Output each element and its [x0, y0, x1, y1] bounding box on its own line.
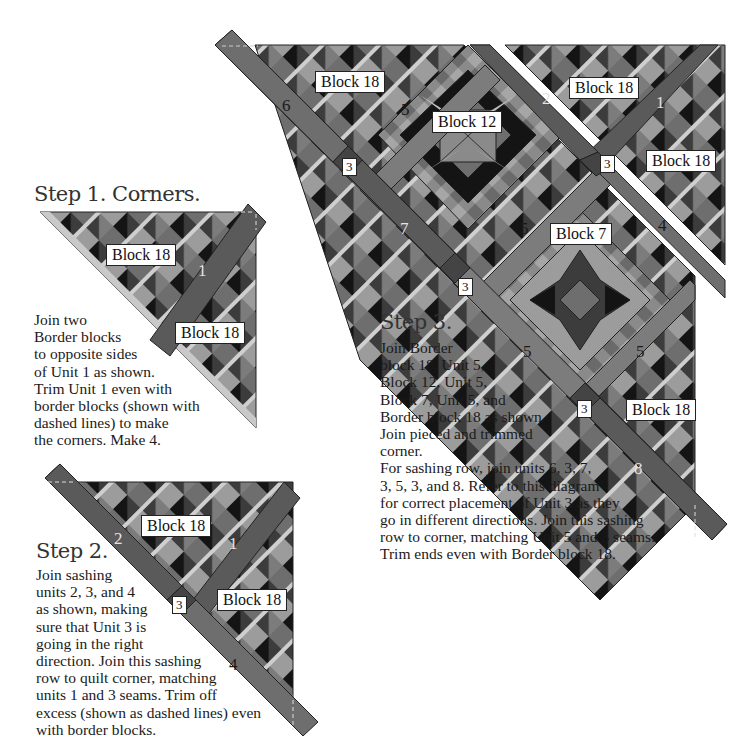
step3-unit5a-label: 5 [401, 101, 410, 118]
corner-unit1-label: 1 [656, 94, 665, 111]
corner-block18-top-label: Block 18 [569, 77, 639, 99]
step1-block18-bottom-label: Block 18 [175, 322, 245, 344]
step2-block18-top-label: Block 18 [141, 515, 211, 537]
step3-unit5b-label: 5 [520, 220, 529, 237]
step2-line: with border blocks. [36, 721, 261, 738]
step3-line: corner. [380, 442, 655, 459]
step2-title: Step 2. [36, 539, 108, 563]
step2-unit3-label: 3 [172, 596, 187, 614]
step3-line: block 18, Unit 5, [380, 356, 655, 373]
step2-line: Join sashing [36, 566, 261, 583]
step1-line: border blocks (shown with [34, 397, 200, 414]
corner-unit4-label: 4 [658, 217, 667, 234]
step2-line: units 1 and 3 seams. Trim off [36, 686, 261, 703]
step3-block12-label: Block 12 [432, 111, 502, 133]
step3-instructions: Join Border block 18, Unit 5, Block 12, … [380, 339, 655, 563]
step1-line: Trim Unit 1 even with [34, 380, 200, 397]
step2-line: sure that Unit 3 is [36, 618, 261, 635]
step2-line: going in the right [36, 635, 261, 652]
step3-unit5c-label: 5 [523, 343, 532, 360]
step3-block7-label: Block 7 [550, 223, 612, 245]
step2-unit1-label: 1 [229, 535, 238, 552]
step2-line: direction. Join this sashing [36, 652, 261, 669]
step3-line: go in different directions. Join this sa… [380, 511, 655, 528]
step3-line: row to corner, matching Unit 5 and 3 sea… [380, 528, 655, 545]
step1-unit1-label: 1 [198, 262, 207, 279]
step3-line: Trim ends even with Border block 18. [380, 545, 655, 562]
step3-unit7-label: 7 [400, 220, 409, 237]
step3-unit3a-label: 3 [342, 158, 357, 176]
step1-line: of Unit 1 as shown. [34, 363, 200, 380]
corner-block18-bottom-label: Block 18 [646, 150, 716, 172]
step2-line: row to quilt corner, matching [36, 669, 261, 686]
step3-unit5d-label: 5 [636, 343, 645, 360]
step3-block18-bottom-label: Block 18 [626, 399, 696, 421]
step1-title: Step 1. Corners. [34, 182, 200, 206]
step3-unit8-label: 8 [634, 460, 643, 477]
step2-unit4-label: 4 [229, 656, 238, 673]
step3-line: Join pieced and trimmed [380, 425, 655, 442]
step2-line: excess (shown as dashed lines) even [36, 704, 261, 721]
step3-unit3b-label: 3 [458, 278, 473, 296]
corner-unit3-label: 3 [600, 155, 615, 173]
step3-title: Step 3. [380, 310, 452, 334]
step3-line: Border block 18 as shown. [380, 408, 655, 425]
step3-line: Block 7, Unit 5, and [380, 391, 655, 408]
step3-block18-top-label: Block 18 [315, 71, 385, 93]
step3-line: Join Border [380, 339, 655, 356]
step2-block18-bottom-label: Block 18 [217, 589, 287, 611]
step3-line: 3, 5, 3, and 8. Refer to this diagram [380, 477, 655, 494]
step1-block18-top-label: Block 18 [106, 244, 176, 266]
step3-unit3c-label: 3 [577, 400, 592, 418]
step3-line: Block 12, Unit 5, [380, 373, 655, 390]
step1-line: to opposite sides [34, 345, 200, 362]
step3-unit6-label: 6 [282, 97, 291, 114]
step1-line: dashed lines) to make [34, 414, 200, 431]
corner-unit2-label: 2 [542, 90, 551, 107]
step3-line: for correct placement of Unit 3 as they [380, 494, 655, 511]
step3-line: For sashing row, join units 6, 3, 7, [380, 459, 655, 476]
step2-unit2-label: 2 [114, 530, 123, 547]
step1-line: the corners. Make 4. [34, 431, 200, 448]
